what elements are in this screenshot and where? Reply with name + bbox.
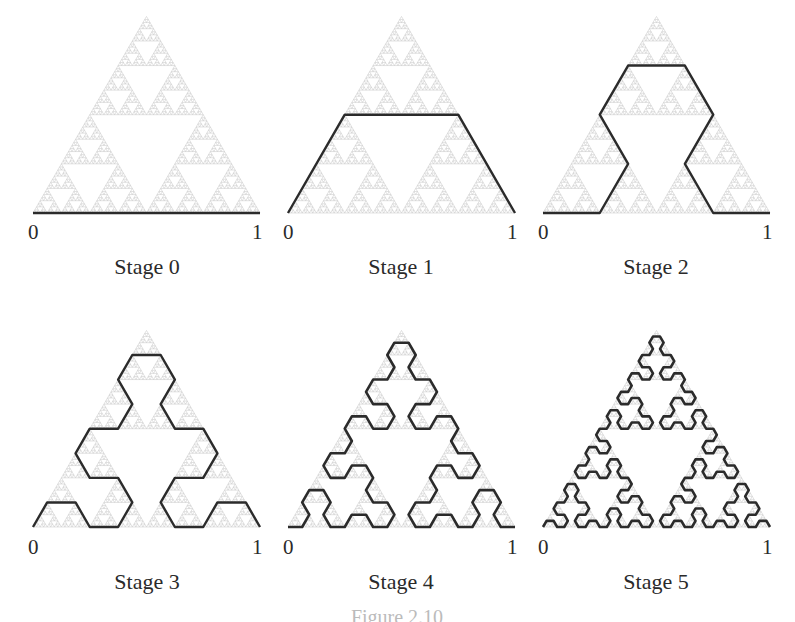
panel-stage-2 (543, 16, 770, 213)
panel-stage-4 (288, 330, 515, 527)
axis-end-label: 1 (762, 537, 773, 558)
stage-label: Stage 0 (114, 256, 179, 278)
stage-label: Stage 1 (368, 256, 433, 278)
axis-start-label: 0 (538, 222, 549, 243)
stage-label: Stage 3 (114, 571, 179, 593)
arrowhead-curve (288, 343, 515, 527)
sierpinski-triangle-background (33, 330, 260, 527)
axis-end-label: 1 (252, 537, 263, 558)
arrowhead-curve (33, 355, 260, 527)
axis-end-label: 1 (252, 222, 263, 243)
stage-label: Stage 4 (368, 571, 433, 593)
sierpinski-triangle-background (543, 16, 770, 213)
stage-label: Stage 5 (623, 571, 688, 593)
axis-end-label: 1 (507, 537, 518, 558)
panel-stage-1 (288, 16, 515, 213)
axis-start-label: 0 (283, 222, 294, 243)
figure-caption: Figure 2.10 (351, 606, 443, 622)
stage-label: Stage 2 (623, 256, 688, 278)
panel-stage-3 (33, 330, 260, 527)
sierpinski-arrowhead-figure (0, 0, 795, 622)
panel-stage-5 (543, 330, 770, 527)
arrowhead-curve (543, 337, 770, 527)
sierpinski-triangle-background (33, 16, 260, 213)
arrowhead-curve (543, 66, 770, 213)
axis-start-label: 0 (538, 537, 549, 558)
axis-end-label: 1 (762, 222, 773, 243)
sierpinski-triangle-background (288, 330, 515, 527)
axis-start-label: 0 (283, 537, 294, 558)
panel-stage-0 (33, 16, 260, 213)
axis-end-label: 1 (507, 222, 518, 243)
axis-start-label: 0 (28, 537, 39, 558)
axis-start-label: 0 (28, 222, 39, 243)
